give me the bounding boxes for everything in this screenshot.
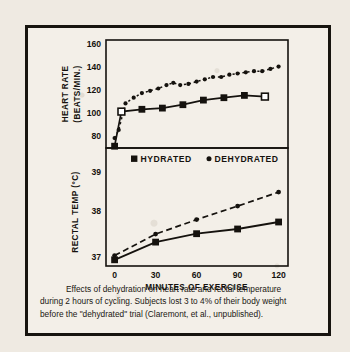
hr-ytick-80: 80 (91, 131, 101, 141)
xtick-90: 90 (233, 270, 243, 280)
rectal-temp-plot-border (106, 148, 288, 266)
temp-hydrated-line (115, 222, 279, 260)
legend-dehydrated-marker-icon (207, 156, 212, 161)
temp-dehydrated-line (115, 192, 279, 256)
legend-dehydrated-label: DEHYDRATED (215, 154, 279, 164)
caption-line-3: before the "dehydrated" trial (Claremont… (40, 308, 318, 320)
legend: HYDRATED DEHYDRATED (131, 154, 279, 164)
caption-line-2: during 2 hours of cycling. Subjects lost… (40, 295, 318, 307)
hr-hydrated-markers (111, 92, 268, 150)
hr-axis-title-line2: (BEATS/MIN.) (73, 65, 82, 123)
temp-ytick-39: 39 (91, 167, 101, 177)
temp-axis-title: RECTAL TEMP (°C) (71, 171, 80, 252)
hr-ytick-160: 160 (87, 39, 102, 49)
temp-ytick-37: 37 (91, 252, 101, 262)
xtick-30: 30 (151, 270, 161, 280)
hr-ytick-140: 140 (87, 62, 102, 72)
heart-rate-panel: 160 140 120 100 80 HEART RATE (BEATS/MIN… (61, 39, 288, 150)
legend-hydrated-marker-icon (131, 156, 137, 162)
xtick-60: 60 (192, 270, 202, 280)
caption-line-1: Effects of dehydration on heart rate and… (40, 283, 318, 295)
hr-axis-title-line1: HEART RATE (61, 66, 70, 123)
temp-dehydrated-markers (112, 190, 281, 258)
hr-ytick-120: 120 (87, 85, 102, 95)
xtick-0: 0 (112, 270, 117, 280)
legend-hydrated-label: HYDRATED (141, 154, 192, 164)
temp-ytick-38: 38 (91, 206, 101, 216)
figure-frame: 160 140 120 100 80 HEART RATE (BEATS/MIN… (25, 25, 331, 336)
xtick-120: 120 (271, 270, 286, 280)
rectal-temp-panel: 39 38 37 RECTAL TEMP (°C) HYDRATED DEHYD… (71, 148, 288, 266)
figure-caption: Effects of dehydration on heart rate and… (40, 283, 318, 320)
hr-hydrated-line (115, 95, 265, 146)
hr-ytick-100: 100 (87, 108, 102, 118)
